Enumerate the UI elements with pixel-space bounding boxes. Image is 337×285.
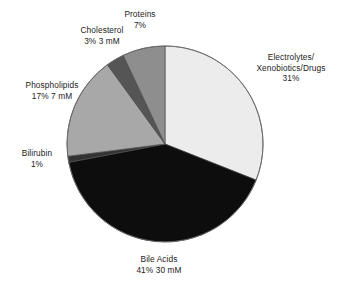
slice-label-electrolytes-line2: Xenobiotics/Drugs bbox=[247, 63, 335, 74]
slice-label-electrolytes-values: 31% bbox=[247, 73, 335, 84]
slice-label-phospholipids-name: Phospholipids bbox=[6, 80, 98, 91]
pie-chart-canvas bbox=[0, 0, 337, 285]
slice-label-bilirubin-values: 1% bbox=[2, 159, 72, 170]
slice-label-electrolytes: Electrolytes/ Xenobiotics/Drugs 31% bbox=[247, 52, 335, 84]
slice-label-bile-acids: Bile Acids 41% 30 mM bbox=[106, 254, 212, 275]
slice-label-cholesterol: Cholesterol 3% 3 mM bbox=[58, 25, 146, 46]
slice-label-bilirubin-name: Bilirubin bbox=[2, 148, 72, 159]
slice-label-phospholipids: Phospholipids 17% 7 mM bbox=[6, 80, 98, 101]
slice-label-phospholipids-values: 17% 7 mM bbox=[6, 91, 98, 102]
slice-label-cholesterol-name: Cholesterol bbox=[58, 25, 146, 36]
slice-label-proteins-name: Proteins bbox=[104, 9, 176, 20]
slice-label-bile-acids-values: 41% 30 mM bbox=[106, 265, 212, 276]
slice-label-cholesterol-values: 3% 3 mM bbox=[58, 36, 146, 47]
slice-label-bile-acids-name: Bile Acids bbox=[106, 254, 212, 265]
slice-label-electrolytes-line1: Electrolytes/ bbox=[247, 52, 335, 63]
slice-label-bilirubin: Bilirubin 1% bbox=[2, 148, 72, 169]
pie-slice-group bbox=[67, 46, 263, 242]
pie-chart: Proteins 7% Cholesterol 3% 3 mM Phosphol… bbox=[0, 0, 337, 285]
